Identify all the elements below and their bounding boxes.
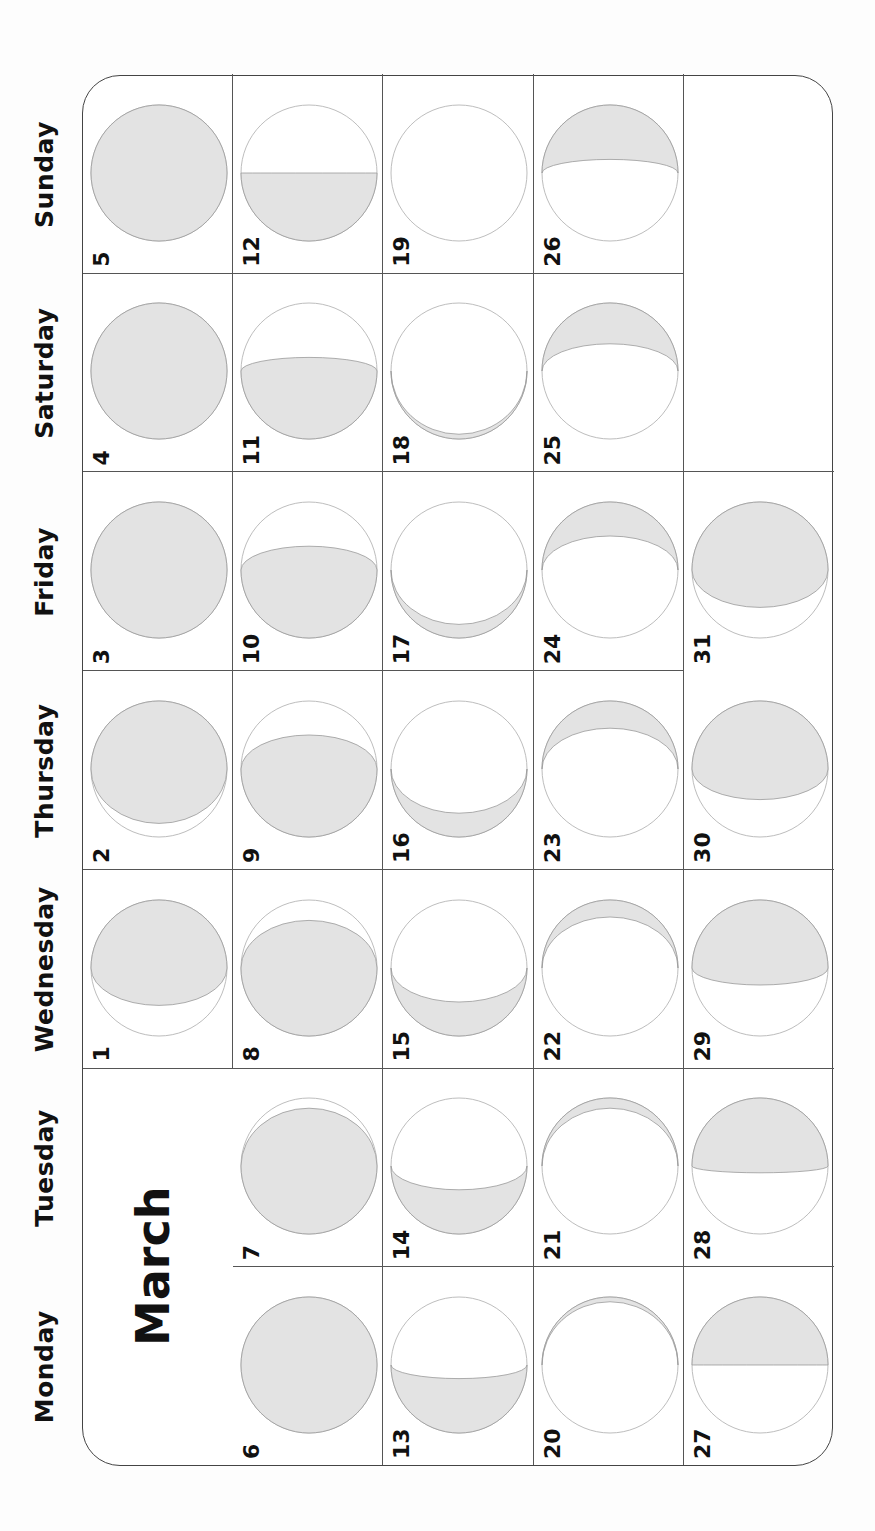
weekday-header-monday: Monday <box>30 1267 70 1466</box>
weekday-header-tuesday: Tuesday <box>30 1069 70 1268</box>
moon-phase-icon <box>690 500 830 640</box>
day-cell[interactable]: 26 <box>534 74 684 273</box>
day-cell[interactable]: 14 <box>383 1068 533 1267</box>
moon-phase-icon <box>389 103 529 243</box>
day-cell[interactable]: 3 <box>83 472 233 671</box>
day-cell[interactable]: 29 <box>684 869 834 1068</box>
moon-phase-icon <box>540 103 680 243</box>
day-cell[interactable]: 31 <box>684 472 834 671</box>
moon-phase-icon <box>540 699 680 839</box>
day-number: 11 <box>239 435 264 466</box>
day-number: 31 <box>690 634 715 665</box>
day-number: 21 <box>540 1230 565 1261</box>
day-cell[interactable]: 20 <box>534 1266 684 1465</box>
day-number: 7 <box>239 1245 264 1260</box>
moon-phase-icon <box>540 500 680 640</box>
day-number: 1 <box>89 1046 114 1061</box>
day-number: 2 <box>89 848 114 863</box>
moon-phase-icon <box>239 699 379 839</box>
moon-phase-icon <box>540 302 680 442</box>
day-cell[interactable]: 7 <box>233 1068 383 1267</box>
moon-phase-icon <box>690 1295 830 1435</box>
day-cell[interactable]: 2 <box>83 670 233 869</box>
day-number: 17 <box>389 634 414 665</box>
moon-phase-icon <box>89 898 229 1038</box>
weekday-header-wednesday: Wednesday <box>30 870 70 1069</box>
day-cell[interactable]: 28 <box>684 1068 834 1267</box>
calendar-page: MondayTuesdayWednesdayThursdayFridaySatu… <box>0 0 875 1531</box>
day-number: 18 <box>389 435 414 466</box>
moon-phase-icon <box>89 302 229 442</box>
day-cell[interactable]: 19 <box>383 74 533 273</box>
day-cell[interactable]: 11 <box>233 273 383 472</box>
day-number: 27 <box>690 1428 715 1459</box>
day-number: 5 <box>89 252 114 267</box>
day-number: 23 <box>540 832 565 863</box>
day-cell[interactable]: 5 <box>83 74 233 273</box>
day-number: 22 <box>540 1031 565 1062</box>
day-cell[interactable]: 24 <box>534 472 684 671</box>
day-cell[interactable]: 4 <box>83 273 233 472</box>
day-number: 8 <box>239 1046 264 1061</box>
weekday-header-friday: Friday <box>30 473 70 672</box>
moon-phase-icon <box>89 699 229 839</box>
moon-phase-icon <box>690 1096 830 1236</box>
grid-line-vertical <box>83 1068 233 1069</box>
day-number: 9 <box>239 848 264 863</box>
moon-phase-icon <box>89 103 229 243</box>
day-number: 3 <box>89 649 114 664</box>
day-cell[interactable]: 16 <box>383 670 533 869</box>
day-cell[interactable]: 23 <box>534 670 684 869</box>
moon-phase-icon <box>239 302 379 442</box>
day-number: 6 <box>239 1444 264 1459</box>
day-cell[interactable]: 21 <box>534 1068 684 1267</box>
moon-phase-icon <box>239 500 379 640</box>
weekday-header-thursday: Thursday <box>30 671 70 870</box>
moon-phase-icon <box>690 898 830 1038</box>
moon-phase-icon <box>389 898 529 1038</box>
day-cell[interactable]: 9 <box>233 670 383 869</box>
moon-phase-icon <box>690 699 830 839</box>
day-number: 26 <box>540 236 565 267</box>
day-cell[interactable]: 30 <box>684 670 834 869</box>
moon-phase-icon <box>389 699 529 839</box>
month-title: March <box>123 1068 183 1465</box>
moon-phase-icon <box>239 1096 379 1236</box>
day-number: 12 <box>239 236 264 267</box>
moon-phase-icon <box>239 1295 379 1435</box>
moon-phase-icon <box>389 500 529 640</box>
day-cell[interactable]: 13 <box>383 1266 533 1465</box>
day-cell[interactable]: 25 <box>534 273 684 472</box>
day-cell[interactable]: 27 <box>684 1266 834 1465</box>
day-cell[interactable]: 18 <box>383 273 533 472</box>
day-number: 14 <box>389 1230 414 1261</box>
day-cell[interactable]: 22 <box>534 869 684 1068</box>
day-number: 20 <box>540 1428 565 1459</box>
day-cell[interactable]: 10 <box>233 472 383 671</box>
day-number: 16 <box>389 832 414 863</box>
day-number: 29 <box>690 1031 715 1062</box>
calendar-grid: March12345678910111213141516171819202122… <box>82 75 833 1466</box>
day-cell[interactable]: 17 <box>383 472 533 671</box>
day-number: 13 <box>389 1428 414 1459</box>
day-cell[interactable]: 8 <box>233 869 383 1068</box>
moon-phase-icon <box>389 302 529 442</box>
day-number: 30 <box>690 832 715 863</box>
moon-phase-icon <box>389 1295 529 1435</box>
day-number: 15 <box>389 1031 414 1062</box>
moon-phase-icon <box>540 1295 680 1435</box>
day-number: 24 <box>540 634 565 665</box>
day-cell[interactable]: 6 <box>233 1266 383 1465</box>
day-cell[interactable]: 1 <box>83 869 233 1068</box>
day-cell[interactable]: 12 <box>233 74 383 273</box>
moon-phase-icon <box>239 898 379 1038</box>
weekday-header-sunday: Sunday <box>30 75 70 274</box>
day-number: 19 <box>389 236 414 267</box>
moon-phase-icon <box>89 500 229 640</box>
day-cell[interactable]: 15 <box>383 869 533 1068</box>
day-number: 10 <box>239 634 264 665</box>
day-number: 28 <box>690 1230 715 1261</box>
day-number: 4 <box>89 450 114 465</box>
day-number: 25 <box>540 435 565 466</box>
weekday-header-saturday: Saturday <box>30 274 70 473</box>
